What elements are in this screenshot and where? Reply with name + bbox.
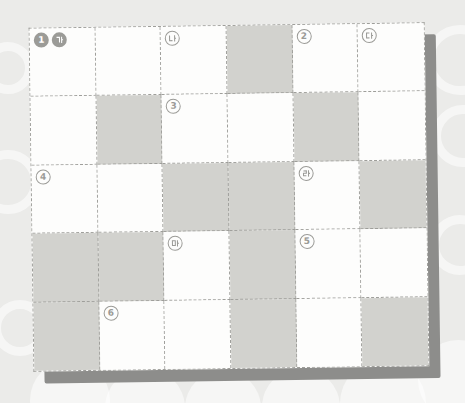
clue-badges: 5 [299,234,314,249]
answer-cell-r0-c0[interactable]: 1 [30,28,97,97]
clue-badges [362,28,377,43]
blocked-cell-r4-c0 [33,301,100,370]
blocked-cell-r0-c3 [227,25,294,94]
blocked-cell-r1-c1 [96,95,163,164]
answer-cell-r1-c2[interactable]: 3 [162,94,229,163]
clue-badges: 4 [36,169,51,184]
blocked-cell-r3-c3 [229,230,296,299]
clue-badges: 2 [296,29,311,44]
blocked-cell-r2-c2 [163,163,230,232]
answer-cell-r3-c2[interactable] [164,231,231,300]
clue-badge-가 [52,32,67,47]
answer-cell-r2-c4[interactable] [294,161,361,230]
crossword-puzzle: 123456 [29,22,430,371]
clue-badge-다 [362,28,377,43]
answer-cell-r4-c2[interactable] [165,300,232,369]
blocked-cell-r2-c5 [360,160,427,229]
answer-cell-r1-c3[interactable] [228,93,295,162]
answer-cell-r3-c5[interactable] [361,228,428,297]
blocked-cell-r3-c1 [98,232,165,301]
answer-cell-r2-c0[interactable]: 4 [32,165,99,234]
answer-cell-r2-c1[interactable] [97,164,164,233]
clue-badge-라 [298,166,313,181]
blocked-cell-r3-c0 [32,233,99,302]
clue-badge-5: 5 [299,234,314,249]
blocked-cell-r4-c5 [362,297,429,366]
clue-badges [298,166,313,181]
clue-badge-4: 4 [36,169,51,184]
clue-badges: 1 [34,32,67,47]
blocked-cell-r1-c4 [293,93,360,162]
answer-cell-r0-c1[interactable] [95,27,162,96]
clue-badges [168,236,183,251]
clue-badges: 3 [166,99,181,114]
answer-cell-r3-c4[interactable]: 5 [295,229,362,298]
clue-badge-3: 3 [166,99,181,114]
clue-badge-1: 1 [34,33,49,48]
blocked-cell-r4-c3 [230,299,297,368]
clue-badge-6: 6 [103,305,118,320]
answer-cell-r0-c4[interactable]: 2 [292,24,359,93]
crossword-grid: 123456 [29,22,430,371]
clue-badges: 6 [103,305,118,320]
answer-cell-r1-c0[interactable] [31,96,98,165]
clue-badges [165,31,180,46]
answer-cell-r1-c5[interactable] [359,92,426,161]
clue-badge-나 [165,31,180,46]
answer-cell-r0-c2[interactable] [161,26,228,95]
answer-cell-r4-c4[interactable] [296,298,363,367]
answer-cell-r0-c5[interactable] [358,23,425,92]
answer-cell-r4-c1[interactable]: 6 [99,301,166,370]
blocked-cell-r2-c3 [229,162,296,231]
clue-badge-마 [168,236,183,251]
clue-badge-2: 2 [296,29,311,44]
